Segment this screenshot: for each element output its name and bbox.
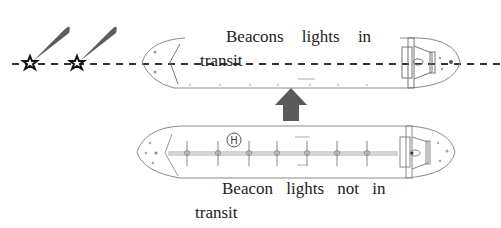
deck-pipeline xyxy=(168,151,398,156)
star-icon xyxy=(70,56,84,69)
arrow-up-icon xyxy=(275,88,307,121)
caption-not-in-transit-line1: Beacon lights not in xyxy=(222,178,385,199)
caption-in-transit-line2: transit xyxy=(200,50,243,71)
light-beam-icon xyxy=(80,27,117,61)
helipad-letter: H xyxy=(230,135,238,146)
beacon-light-2 xyxy=(70,27,117,69)
diagram-canvas: H Beacons lights in transit Beacon light… xyxy=(0,0,501,228)
caption-not-in-transit-line2: transit xyxy=(195,202,238,223)
ship-not-in-transit: H xyxy=(137,126,455,178)
caption-in-transit-line1: Beacons lights in xyxy=(226,26,371,47)
light-beam-icon xyxy=(33,27,70,61)
superstructure xyxy=(400,126,430,178)
beacon-light-1 xyxy=(23,27,70,69)
star-icon xyxy=(23,56,37,69)
